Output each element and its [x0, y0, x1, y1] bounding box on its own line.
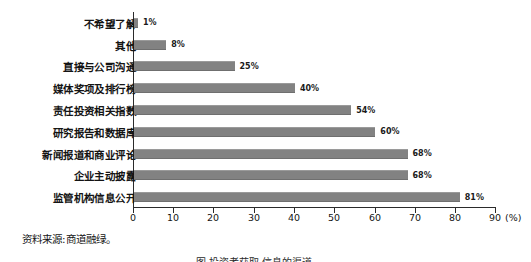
bar-category-label: 监管机构信息公开 [53, 190, 136, 205]
x-axis-label: 90 [489, 212, 501, 223]
bar-row: 新闻报道和商业评论 68% [0, 143, 531, 165]
x-axis-label: 0 [130, 212, 136, 223]
bar-value-label: 25% [240, 62, 259, 71]
bar-row: 其他 8% [0, 34, 531, 56]
bar-row: 媒体奖项及排行榜 40% [0, 77, 531, 99]
bar-value-label: 1% [143, 18, 157, 27]
bar-value-label: 68% [413, 171, 432, 180]
bar-row: 直接与公司沟通 25% [0, 56, 531, 78]
bar-container: 54% [134, 105, 375, 115]
bar-value-label: 40% [300, 84, 319, 93]
bar-category-label: 其他 [115, 37, 136, 52]
bar-value-label: 81% [465, 193, 484, 202]
bar-value-label: 60% [380, 127, 399, 136]
bar-container: 25% [134, 61, 259, 71]
bar-container: 1% [134, 18, 157, 28]
bar-value-label: 8% [171, 40, 185, 49]
source-note: 资料来源:商道融绿。 [22, 231, 116, 246]
bar-container: 40% [134, 83, 319, 93]
bar-category-label: 不希望了解 [84, 15, 136, 30]
x-axis-unit-label: (%) [505, 212, 521, 223]
bar-container: 68% [134, 170, 432, 180]
figure-caption: 图 投资者获取 信息的渠道 [196, 254, 312, 262]
bar [134, 105, 351, 115]
bar-row: 监管机构信息公开 81% [0, 186, 531, 208]
bar [134, 170, 408, 180]
bar [134, 40, 166, 50]
x-axis-label: 10 [167, 212, 179, 223]
bar-container: 68% [134, 149, 432, 159]
bar [134, 149, 408, 159]
bar [134, 127, 375, 137]
bar [134, 18, 138, 28]
bar-row: 责任投资相关指数 54% [0, 99, 531, 121]
x-axis-label: 40 [288, 212, 300, 223]
bar-category-label: 责任投资相关指数 [53, 103, 136, 118]
x-axis-label: 70 [409, 212, 421, 223]
bar-row: 不希望了解 1% [0, 12, 531, 34]
bar-container: 60% [134, 127, 399, 137]
bar-row: 研究报告和数据库 60% [0, 121, 531, 143]
bar-category-label: 企业主动披露 [74, 168, 136, 183]
bar-category-label: 新闻报道和商业评论 [42, 146, 136, 161]
bar [134, 83, 295, 93]
bar [134, 61, 235, 71]
bar [134, 192, 460, 202]
bar-container: 81% [134, 192, 484, 202]
x-axis-label: 60 [369, 212, 381, 223]
x-axis-label: 30 [248, 212, 260, 223]
x-axis-label: 50 [328, 212, 340, 223]
bar-value-label: 68% [413, 149, 432, 158]
bar-chart-figure: 不希望了解 1% 其他 8% 直接与公司沟通 25% 媒体奖项及排行榜 40% … [0, 0, 531, 220]
bar-category-label: 研究报告和数据库 [53, 124, 136, 139]
x-axis-label: 20 [207, 212, 219, 223]
bar-row: 企业主动披露 68% [0, 165, 531, 187]
bar-container: 8% [134, 40, 185, 50]
bar-category-label: 直接与公司沟通 [63, 59, 136, 74]
x-axis-label: 80 [449, 212, 461, 223]
bar-value-label: 54% [356, 106, 375, 115]
bar-category-label: 媒体奖项及排行榜 [53, 81, 136, 96]
